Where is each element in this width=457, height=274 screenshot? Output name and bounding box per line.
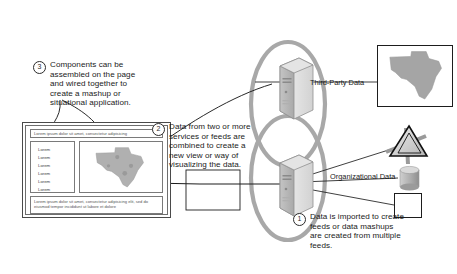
map-data-point	[122, 171, 127, 176]
list-item: Lorem	[38, 186, 74, 194]
callout-number-2: 2	[152, 123, 165, 136]
label-organizational-data: Organizational Data	[330, 172, 395, 181]
map-data-point	[115, 155, 119, 159]
mockup-inner-frame: Lorem ipsum dolor sit amet, consectetur …	[25, 125, 168, 215]
callout-text-3: Components can be assembled on the page …	[50, 60, 141, 108]
label-third-party-data: Third-Party Data	[310, 78, 364, 87]
list-item: Lorem	[38, 178, 74, 186]
mockup-footer-text-widget: Lorem ipsum dolor sit amet, consectetur …	[30, 196, 163, 214]
connector-org-chart	[302, 188, 394, 205]
list-item: Lorem	[38, 170, 74, 178]
mockup-header-bar: Lorem ipsum dolor sit amet, consectetur …	[30, 129, 163, 138]
database-cylinder-icon	[400, 166, 419, 190]
page-mockup: Lorem ipsum dolor sit amet, consectetur …	[22, 122, 171, 218]
map-data-point	[107, 164, 110, 167]
list-item: Lorem	[38, 146, 74, 154]
callout-text-2: Data from two or more services or feeds …	[169, 122, 256, 170]
map-texas-icon	[80, 142, 162, 192]
mockup-list-widget: Lorem Lorem Lorem Lorem Lorem Lorem	[30, 141, 75, 193]
map-data-point	[129, 164, 133, 168]
map-texas-icon	[378, 46, 452, 106]
callout-text-1: Data is imported to create feeds or data…	[310, 212, 405, 250]
callout-components-assembled: 3 Components can be assembled on the pag…	[33, 60, 141, 108]
mockup-map-widget	[79, 141, 163, 193]
server-tower-organizational-icon	[280, 155, 313, 216]
callout-number-1: 1	[293, 213, 306, 226]
callout-data-imported: 1 Data is imported to create feeds or da…	[293, 212, 405, 250]
mockup-footer-text: Lorem ipsum dolor sit amet, consectetur …	[34, 199, 159, 210]
server-tower-third-party-icon	[280, 58, 313, 119]
callout-data-combined: 2 Data from two or more services or feed…	[152, 122, 256, 170]
third-party-map-visualization	[377, 45, 453, 107]
list-item: Lorem	[38, 154, 74, 162]
callout-number-3: 3	[33, 61, 46, 74]
list-item: Lorem	[38, 162, 74, 170]
pyramid-icon	[386, 126, 427, 164]
